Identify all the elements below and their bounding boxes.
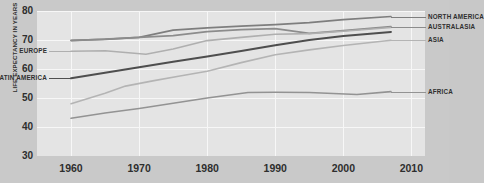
x-tick-label: 1960	[47, 163, 95, 174]
plot-area	[37, 11, 425, 156]
y-tick-label: 60	[3, 64, 33, 74]
x-tick-label: 1990	[251, 163, 299, 174]
series-label-africa: AFRICA	[428, 89, 453, 95]
series-line	[71, 28, 391, 55]
y-tick-label: 50	[3, 93, 33, 103]
series-label-leader	[49, 51, 71, 52]
x-tick-label: 2000	[319, 163, 367, 174]
series-label-europe: EUROPE	[0, 48, 47, 54]
x-axis-tick-labels: 196019701980199020002010	[37, 163, 425, 179]
series-label-leader	[49, 78, 71, 79]
y-tick-label: 80	[3, 6, 33, 16]
x-tick-label: 1980	[183, 163, 231, 174]
series-label-leader	[391, 17, 426, 18]
chart-title: LIFE EXPECTANCY HAS INCREASED BY OVER 20…	[0, 0, 449, 2]
x-tick-label: 2010	[387, 163, 435, 174]
y-tick-label: 40	[3, 122, 33, 132]
series-label-leader	[391, 92, 426, 93]
series-label-leader	[391, 27, 426, 28]
y-tick-label: 70	[3, 35, 33, 45]
series-line	[71, 92, 391, 119]
series-label-leader	[391, 40, 426, 41]
x-tick-label: 1970	[115, 163, 163, 174]
series-label-australasia: AUSTRALASIA	[428, 24, 475, 30]
y-axis-tick-labels: 807060504030	[0, 0, 33, 183]
series-label-north-america: NORTH AMERICA	[428, 14, 484, 20]
y-tick-label: 30	[3, 151, 33, 161]
series-lines	[37, 11, 425, 156]
series-label-latin-america: LATIN AMERICA	[0, 75, 47, 81]
series-label-asia: ASIA	[428, 37, 444, 43]
